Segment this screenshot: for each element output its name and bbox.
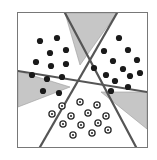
open-circle-center	[72, 134, 74, 136]
filled-dot-marker	[56, 90, 62, 96]
filled-dot-marker	[137, 70, 143, 76]
diagram-panel	[17, 12, 148, 148]
open-circle-center	[107, 129, 109, 131]
filled-dot-marker	[101, 48, 107, 54]
open-circle-center	[80, 124, 82, 126]
filled-dot-marker	[108, 88, 114, 94]
bottom-cluster	[49, 99, 111, 138]
filled-dot-marker	[125, 47, 131, 53]
diagram-root	[0, 0, 157, 160]
filled-dot-marker	[54, 35, 60, 41]
open-circle-center	[105, 115, 107, 117]
filled-dot-marker	[47, 50, 53, 56]
filled-dot-marker	[37, 38, 43, 44]
partition-scatter-figure	[18, 13, 147, 147]
filled-dot-marker	[112, 78, 118, 84]
filled-dot-marker	[40, 88, 46, 94]
open-circle-center	[91, 132, 93, 134]
filled-dot-marker	[63, 47, 69, 53]
filled-dot-marker	[103, 72, 109, 78]
filled-dot-marker	[44, 76, 50, 82]
open-circle-center	[70, 115, 72, 117]
open-circle-center	[51, 113, 53, 115]
open-circle-center	[79, 101, 81, 103]
filled-dot-marker	[48, 63, 54, 69]
filled-dot-marker	[33, 59, 39, 65]
filled-dot-marker	[63, 61, 69, 67]
filled-dot-marker	[125, 84, 131, 90]
filled-dot-marker	[110, 58, 116, 64]
filled-dot-marker	[120, 66, 126, 72]
open-circle-center	[97, 122, 99, 124]
filled-dot-marker	[91, 65, 97, 71]
filled-dot-marker	[127, 73, 133, 79]
open-circle-center	[62, 123, 64, 125]
filled-dot-marker	[29, 72, 35, 78]
filled-dot-marker	[134, 57, 140, 63]
open-circle-center	[96, 104, 98, 106]
filled-dot-marker	[59, 74, 65, 80]
open-circle-center	[61, 105, 63, 107]
filled-dot-marker	[116, 35, 122, 41]
open-circle-center	[87, 112, 89, 114]
